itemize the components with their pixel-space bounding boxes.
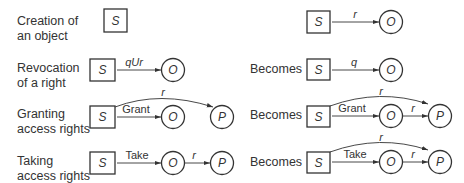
edge-label: Take	[125, 149, 148, 161]
edge-label: r	[161, 86, 166, 98]
edge-label: r	[379, 85, 384, 97]
object-node-label: O	[386, 155, 395, 169]
edge-label: r	[192, 149, 197, 161]
edge-label: r	[411, 102, 416, 114]
row-4-before-graph: S Take O r P	[90, 149, 234, 175]
row-3-after-graph: S Grant O r r P	[307, 85, 452, 128]
object-node-label: O	[386, 63, 395, 77]
subject-node-label: S	[314, 15, 322, 29]
subject-node-label: S	[111, 14, 119, 28]
access-rights-diagram: S O --> S r O O --> S qUr O O --> S q O …	[0, 0, 464, 183]
object-node-p-label: P	[218, 110, 226, 124]
subject-node-label: S	[98, 110, 106, 124]
edge-label: r	[411, 148, 416, 160]
object-node-label: O	[386, 15, 395, 29]
row-4-after-graph: S Take O r r P	[307, 131, 452, 174]
row-2-after-graph: S q O	[307, 56, 403, 82]
row-1-after-graph: S r O	[307, 8, 403, 34]
subject-node-label: S	[98, 156, 106, 170]
edge-label: Grant	[338, 102, 366, 114]
row-3-before-graph: S Grant O r P	[90, 86, 234, 129]
object-node-label: O	[168, 110, 177, 124]
object-node-label: O	[168, 63, 177, 77]
edge-label: Grant	[122, 103, 150, 115]
row-1-before-graph: S	[104, 9, 127, 32]
subject-node-label: S	[314, 63, 322, 77]
edge-label: qUr	[125, 56, 144, 68]
subject-node-label: S	[98, 63, 106, 77]
object-node-label: O	[386, 109, 395, 123]
object-node-p-label: P	[218, 156, 226, 170]
edge-label: r	[353, 8, 358, 20]
object-node-p-label: P	[436, 109, 444, 123]
edge-label: q	[351, 56, 358, 68]
object-node-p-label: P	[436, 155, 444, 169]
row-2-before-graph: S qUr O	[90, 56, 185, 82]
object-node-label: O	[168, 156, 177, 170]
subject-node-label: S	[314, 110, 322, 124]
edge-label: Take	[343, 148, 366, 160]
subject-node-label: S	[314, 156, 322, 170]
edge-label: r	[379, 131, 384, 143]
